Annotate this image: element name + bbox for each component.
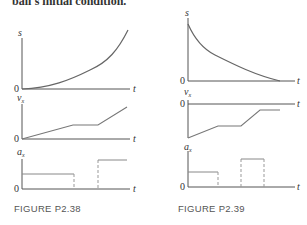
ax-zero-label: 0 (180, 181, 185, 192)
s-label: s (185, 7, 189, 18)
figure-p2-39 (188, 18, 295, 187)
vx-curve (188, 110, 280, 138)
ax-label: ax (184, 141, 192, 153)
s-curve (22, 30, 128, 89)
vx-t-label: t (297, 98, 300, 109)
vx-zero-label: 0 (14, 133, 19, 144)
s-label: s (18, 27, 22, 38)
ax-t-label: t (297, 181, 300, 192)
figure-caption-p2-39: FIGURE P2.39 (178, 203, 245, 214)
s-t-label: t (297, 75, 300, 86)
figure-p2-38 (22, 30, 130, 189)
ax-t-label: t (133, 183, 136, 194)
s-zero-label: 0 (180, 75, 185, 86)
figure-p2-39-labels: s 0 t vx 0 t ax 0 t (180, 7, 300, 192)
ax-zero-label: 0 (14, 183, 19, 194)
vx-label: vx (17, 92, 24, 104)
vx-zero-label: 0 (180, 98, 185, 109)
vx-curve (22, 107, 127, 139)
figure-p2-38-labels: s 0 t vx 0 t ax 0 t (14, 27, 136, 194)
s-curve (188, 24, 280, 81)
s-t-label: t (133, 83, 136, 94)
figures-canvas: s 0 t vx 0 t ax 0 t s 0 t vx 0 t ax 0 (0, 0, 307, 225)
figure-caption-p2-38: FIGURE P2.38 (14, 203, 81, 214)
vx-t-label: t (133, 133, 136, 144)
ax-label: ax (17, 146, 25, 158)
vx-label: vx (184, 86, 191, 98)
